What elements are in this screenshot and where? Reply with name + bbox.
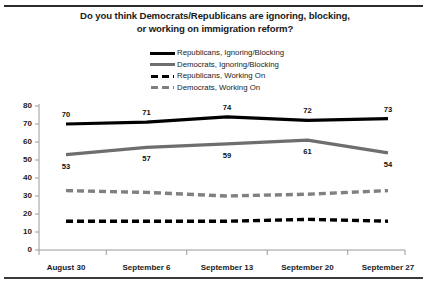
x-axis-tick-label: August 30 (26, 263, 106, 272)
y-axis-tick-label: 10 (10, 227, 32, 236)
data-point-label: 59 (215, 151, 239, 160)
x-axis-ticks (39, 250, 405, 255)
series-line (66, 219, 388, 221)
y-axis-tick-label: 70 (10, 119, 32, 128)
data-point-label: 72 (296, 106, 320, 115)
y-axis-tick-label: 60 (10, 137, 32, 146)
data-point-label: 57 (135, 154, 159, 163)
data-point-label: 61 (296, 147, 320, 156)
x-axis-tick-label: September 20 (268, 263, 348, 272)
y-axis-tick-label: 30 (10, 191, 32, 200)
data-point-label: 70 (54, 110, 78, 119)
axes (39, 104, 405, 250)
data-series (66, 117, 388, 221)
y-axis-tick-label: 0 (10, 245, 32, 254)
y-axis-tick-label: 40 (10, 173, 32, 182)
plot-area (0, 0, 427, 287)
x-axis-tick-label: September 6 (107, 263, 187, 272)
data-point-label: 54 (376, 160, 400, 169)
y-axis-tick-label: 50 (10, 155, 32, 164)
data-point-label: 53 (54, 162, 78, 171)
x-axis-tick-label: September 13 (187, 263, 267, 272)
x-axis-tick-label: September 27 (348, 263, 427, 272)
chart-figure: Do you think Democrats/Republicans are i… (0, 0, 427, 287)
data-point-label: 74 (215, 103, 239, 112)
data-point-label: 73 (376, 105, 400, 114)
y-axis-tick-label: 20 (10, 209, 32, 218)
y-axis-tick-label: 80 (10, 101, 32, 110)
series-line (66, 117, 388, 124)
data-point-label: 71 (135, 108, 159, 117)
series-line (66, 191, 388, 196)
y-axis-ticks (35, 106, 39, 250)
